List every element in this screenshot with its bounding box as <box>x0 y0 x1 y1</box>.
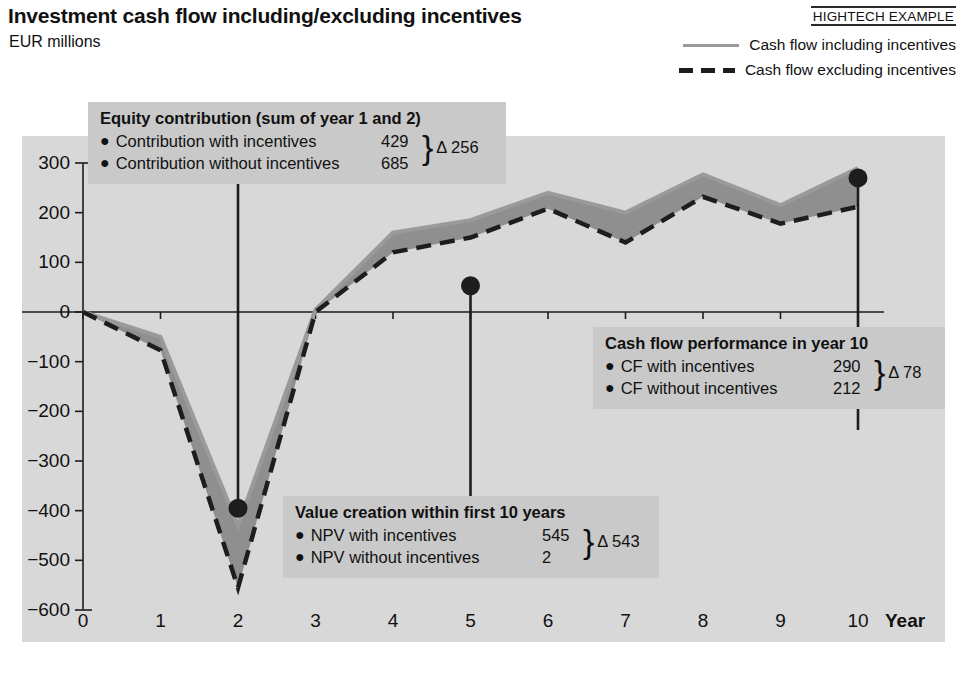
x-axis-tick-label: 2 <box>218 610 258 632</box>
legend-item-excluding: Cash flow excluding incentives <box>679 61 956 79</box>
legend-item-including: Cash flow including incentives <box>679 36 956 54</box>
bullet-icon: ● <box>295 527 305 543</box>
y-axis-tick-label: 0 <box>4 301 70 323</box>
callout-title: Value creation within first 10 years <box>295 503 647 522</box>
legend-label-excluding: Cash flow excluding incentives <box>745 61 956 79</box>
y-axis-tick-label: 200 <box>4 202 70 224</box>
callout-delta: } Δ 78 <box>874 359 921 386</box>
callout-row-label: NPV with incentives <box>311 525 457 547</box>
x-axis-tick-label: 3 <box>296 610 336 632</box>
x-axis-tick-label: 4 <box>373 610 413 632</box>
x-axis-tick-label: 8 <box>683 610 723 632</box>
x-axis-tick-label: 9 <box>761 610 801 632</box>
x-axis-tick-label: 7 <box>606 610 646 632</box>
callout-delta-text: Δ 78 <box>888 363 921 382</box>
x-axis-tick-label: 1 <box>141 610 181 632</box>
y-axis-tick-label: −100 <box>4 351 70 373</box>
chart-legend: Cash flow including incentives Cash flow… <box>679 36 956 79</box>
y-axis-tick-label: −200 <box>4 400 70 422</box>
callout-row-value: 290 <box>833 356 861 378</box>
x-axis-tick-label: 5 <box>451 610 491 632</box>
data-point-marker <box>229 499 248 518</box>
bullet-icon: ● <box>100 155 110 171</box>
callout-delta-text: Δ 256 <box>436 138 478 157</box>
y-axis-tick-label: −300 <box>4 450 70 472</box>
callout-row-value: 212 <box>833 378 861 400</box>
y-axis-tick-label: −500 <box>4 549 70 571</box>
page-title: Investment cash flow including/excluding… <box>8 4 522 28</box>
y-axis-tick-label: 100 <box>4 251 70 273</box>
chart-subtitle: EUR millions <box>9 33 101 51</box>
callout-delta-text: Δ 543 <box>597 532 639 551</box>
y-axis-tick-label: −400 <box>4 500 70 522</box>
callout-row-label: CF with incentives <box>621 356 755 378</box>
curly-brace-icon: } <box>874 359 885 386</box>
callout-rows: ● NPV with incentives 545 ● NPV without … <box>295 525 647 569</box>
callout-delta: } Δ 543 <box>583 528 640 555</box>
callout-title: Cash flow performance in year 10 <box>605 334 933 353</box>
callout-rows: ● CF with incentives 290 ● CF without in… <box>605 356 933 400</box>
callout-title: Equity contribution (sum of year 1 and 2… <box>100 109 494 128</box>
callout-rows: ● Contribution with incentives 429 ● Con… <box>100 131 494 175</box>
callout-row-label: Contribution without incentives <box>116 153 340 175</box>
bullet-icon: ● <box>605 380 615 396</box>
callout-row-label: NPV without incentives <box>311 547 480 569</box>
legend-label-including: Cash flow including incentives <box>749 36 956 54</box>
callout-equity-contribution: Equity contribution (sum of year 1 and 2… <box>88 102 506 184</box>
callout-row-value: 685 <box>381 153 409 175</box>
data-point-marker <box>461 276 480 295</box>
callout-row-value: 545 <box>542 525 570 547</box>
callout-value-creation: Value creation within first 10 years ● N… <box>283 496 659 578</box>
callout-row-label: CF without incentives <box>621 378 778 400</box>
legend-swatch-dashed-line-icon <box>679 63 735 77</box>
bullet-icon: ● <box>100 133 110 149</box>
x-axis-title: Year <box>885 610 925 632</box>
y-axis-tick-label: −600 <box>4 599 70 621</box>
bullet-icon: ● <box>295 549 305 565</box>
source-tag: HIGHTECH EXAMPLE <box>811 6 956 26</box>
bullet-icon: ● <box>605 358 615 374</box>
curly-brace-icon: } <box>422 134 433 161</box>
y-axis-tick-label: 300 <box>4 152 70 174</box>
x-axis-tick-label: 6 <box>528 610 568 632</box>
x-axis-tick-label: 10 <box>838 610 878 632</box>
callout-row-label: Contribution with incentives <box>116 131 317 153</box>
data-point-marker <box>849 168 868 187</box>
callout-row-value: 2 <box>542 547 551 569</box>
legend-swatch-solid-line-icon <box>683 38 739 52</box>
callout-delta: } Δ 256 <box>422 134 479 161</box>
x-axis-tick-label: 0 <box>63 610 103 632</box>
callout-cash-flow-year-10: Cash flow performance in year 10 ● CF wi… <box>593 327 945 409</box>
callout-row-value: 429 <box>381 131 409 153</box>
curly-brace-icon: } <box>583 528 594 555</box>
